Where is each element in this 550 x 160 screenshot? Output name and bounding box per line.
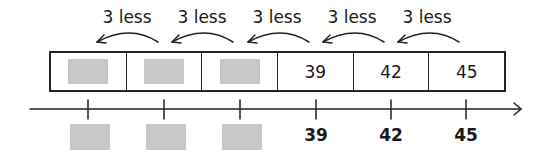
track-cell-3 [202,53,278,90]
track-cell-4: 39 [278,53,354,90]
number-line-blank[interactable] [222,124,262,150]
jump-arrow-icon [248,33,309,43]
number-track: 39 42 45 [49,51,506,92]
number-line-blank[interactable] [70,124,110,150]
track-cell-2 [127,53,203,90]
blank-answer-box[interactable] [144,59,184,84]
track-value: 45 [456,62,478,82]
track-cell-1 [51,53,127,90]
jump-arrow-icon [323,33,384,43]
number-line-label: 42 [379,125,403,145]
number-line-label: 39 [304,125,328,145]
jump-arrow-icon [172,33,233,43]
blank-answer-box[interactable] [220,59,260,84]
blank-answer-box[interactable] [68,59,108,84]
jump-arrow-icon [97,33,158,43]
track-cell-6: 45 [429,53,504,90]
track-value: 42 [380,62,402,82]
jump-arrow-icon [398,33,459,43]
track-value: 39 [305,62,327,82]
number-line-blank[interactable] [146,124,186,150]
number-line-label: 45 [454,125,478,145]
track-cell-5: 42 [354,53,430,90]
